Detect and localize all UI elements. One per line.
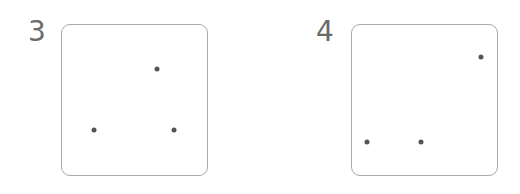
dot-panel-3: [61, 24, 208, 176]
dot-4-1: [479, 55, 484, 60]
dot-panel-4: [351, 24, 498, 176]
panel-label-4: 4: [316, 18, 334, 46]
dot-3-2: [92, 128, 97, 133]
dot-3-1: [155, 67, 160, 72]
dot-3-3: [172, 128, 177, 133]
panel-label-3: 3: [28, 18, 46, 46]
dot-4-2: [365, 140, 370, 145]
dot-4-3: [419, 140, 424, 145]
